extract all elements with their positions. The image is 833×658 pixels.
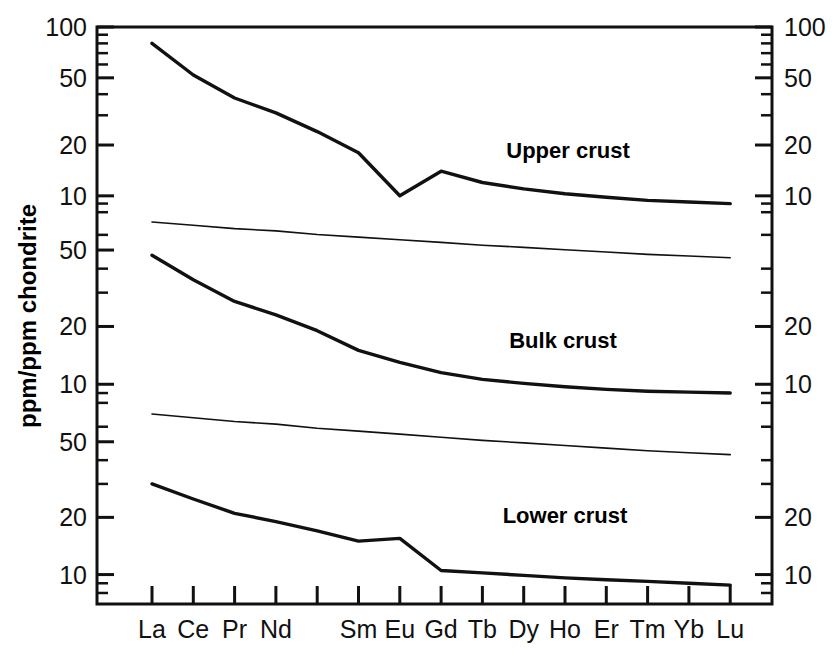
x-tick-label-er: Er — [594, 615, 619, 643]
curve-bulk-panel-baseline — [152, 414, 730, 455]
left-tick-label: 50 — [59, 64, 87, 92]
annotation-lower-crust: Lower crust — [503, 503, 628, 528]
left-tick-label: 20 — [59, 503, 87, 531]
right-tick-label: 10 — [784, 561, 812, 589]
left-tick-label: 10 — [59, 370, 87, 398]
curve-bulk-crust — [152, 255, 730, 393]
right-axis-tick-labels: 10050201020102010 — [784, 13, 826, 589]
left-tick-label: 50 — [59, 428, 87, 456]
right-tick-label: 10 — [784, 182, 812, 210]
x-tick-label-tb: Tb — [468, 615, 497, 643]
chart-figure: 100502010502010502010 10050201020102010 … — [0, 0, 833, 658]
curve-upper-crust — [152, 43, 730, 203]
plot-frame — [97, 27, 772, 604]
y-axis-label: ppm/ppm chondrite — [14, 204, 41, 428]
left-tick-label: 10 — [59, 561, 87, 589]
right-tick-label: 100 — [784, 13, 826, 41]
curve-lower-crust — [152, 484, 730, 585]
x-tick-label-ce: Ce — [177, 615, 209, 643]
x-tick-label-sm: Sm — [340, 615, 378, 643]
right-tick-label: 20 — [784, 312, 812, 340]
right-axis-ticks — [755, 27, 772, 593]
left-tick-label: 50 — [59, 236, 87, 264]
data-curves — [152, 43, 730, 585]
x-tick-label-nd: Nd — [260, 615, 292, 643]
right-tick-label: 20 — [784, 503, 812, 531]
right-tick-label: 20 — [784, 131, 812, 159]
x-tick-label-dy: Dy — [508, 615, 539, 643]
right-tick-label: 50 — [784, 64, 812, 92]
x-tick-label-ho: Ho — [549, 615, 581, 643]
x-axis-tick-labels: LaCePrNdSmEuGdTbDyHoErTmYbLu — [138, 615, 744, 643]
left-axis-tick-labels: 100502010502010502010 — [45, 13, 87, 589]
left-tick-label: 10 — [59, 182, 87, 210]
left-tick-label: 100 — [45, 13, 87, 41]
x-tick-label-lu: Lu — [716, 615, 744, 643]
x-tick-label-eu: Eu — [385, 615, 416, 643]
x-tick-label-tm: Tm — [630, 615, 666, 643]
x-tick-label-pr: Pr — [222, 615, 247, 643]
curve-upper-panel-baseline — [152, 222, 730, 258]
x-tick-label-yb: Yb — [674, 615, 705, 643]
annotation-upper-crust: Upper crust — [506, 138, 630, 163]
left-tick-label: 20 — [59, 312, 87, 340]
right-tick-label: 10 — [784, 370, 812, 398]
x-axis-ticks — [152, 586, 730, 604]
left-tick-label: 20 — [59, 131, 87, 159]
x-tick-label-gd: Gd — [424, 615, 457, 643]
annotation-bulk-crust: Bulk crust — [509, 328, 617, 353]
ree-spider-diagram: 100502010502010502010 10050201020102010 … — [0, 0, 833, 658]
x-tick-label-la: La — [138, 615, 166, 643]
left-axis-ticks — [97, 27, 114, 593]
